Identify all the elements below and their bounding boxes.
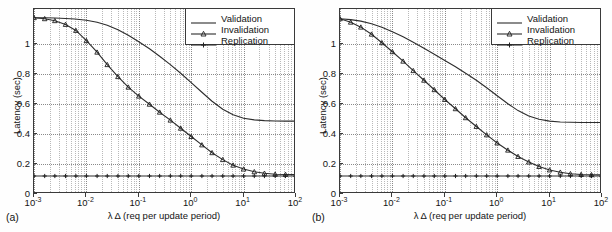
y-tick-mark	[339, 43, 343, 44]
y-tick-mark	[33, 163, 37, 164]
x-tick-mark	[190, 193, 191, 197]
y-tick-label: 1	[25, 37, 30, 48]
series-marker-plus	[369, 174, 373, 178]
legend-label: Replication	[527, 35, 574, 46]
series-marker-plus	[168, 174, 172, 178]
x-tick-label: 10-1	[435, 196, 452, 208]
panel-label-b: (b)	[312, 211, 325, 223]
x-tick-mark	[33, 193, 34, 197]
legend-item-replication[interactable]: Replication	[190, 36, 294, 47]
y-axis-ticks-b: 00.20.40.60.81	[306, 8, 336, 193]
legend-item-replication[interactable]: Replication	[496, 36, 600, 47]
series-marker-plus	[231, 174, 235, 178]
legend-label: Validation	[527, 13, 568, 24]
series-marker-plus	[252, 174, 256, 178]
legend-a: ValidationInvalidationReplication	[185, 8, 295, 45]
series-marker-plus	[294, 174, 295, 178]
legend-label: Invalidation	[221, 24, 269, 35]
series-marker-plus	[43, 174, 47, 178]
series-marker-plus	[210, 174, 214, 178]
y-tick-mark	[339, 133, 343, 134]
series-marker-plus	[495, 174, 499, 178]
series-marker-plus	[485, 174, 489, 178]
series-marker-plus	[401, 174, 405, 178]
legend-sample-none-icon	[496, 14, 523, 25]
legend-sample-triangle-icon	[190, 25, 217, 36]
y-tick-mark	[33, 43, 37, 44]
series-marker-plus	[74, 174, 78, 178]
series-marker-plus	[349, 174, 353, 178]
x-tick-mark	[138, 193, 139, 197]
y-tick-label: 0.8	[323, 67, 336, 78]
series-marker-plus	[432, 174, 436, 178]
x-tick-mark	[391, 193, 392, 197]
y-tick-label: 0.2	[17, 157, 30, 168]
legend-label: Validation	[221, 13, 262, 24]
panel-label-a: (a)	[6, 211, 19, 223]
series-marker-plus	[527, 174, 531, 178]
x-tick-label: 10-2	[383, 196, 400, 208]
figure-two-panel-latency-chart: Latency (sec) 00.20.40.60.81 10-310-210-…	[0, 0, 612, 232]
series-marker-plus	[548, 174, 552, 178]
series-marker-plus	[453, 174, 457, 178]
y-axis-ticks-a: 00.20.40.60.81	[0, 8, 30, 193]
series-marker-plus	[516, 174, 520, 178]
legend-b: ValidationInvalidationReplication	[491, 8, 601, 45]
legend-sample-none-icon	[190, 14, 217, 25]
x-tick-mark	[243, 193, 244, 197]
x-tick-label: 10-3	[331, 196, 348, 208]
series-marker-plus	[443, 174, 447, 178]
x-tick-mark	[339, 193, 340, 197]
x-tick-label: 100	[183, 196, 197, 208]
y-tick-label: 0.6	[17, 97, 30, 108]
series-marker-plus	[359, 174, 363, 178]
series-marker-plus	[380, 174, 384, 178]
x-tick-label: 10-1	[129, 196, 146, 208]
y-tick-label: 1	[331, 37, 336, 48]
x-tick-mark	[85, 193, 86, 197]
y-tick-label: 0.2	[323, 157, 336, 168]
legend-label: Replication	[221, 35, 268, 46]
legend-sample-triangle-icon	[496, 25, 523, 36]
x-tick-label: 10-3	[25, 196, 42, 208]
series-marker-plus	[242, 174, 246, 178]
x-tick-label: 101	[235, 196, 249, 208]
y-tick-mark	[339, 103, 343, 104]
series-marker-plus	[189, 174, 193, 178]
x-tick-label: 101	[541, 196, 555, 208]
x-axis-title-b: λ Δ (req per update period)	[339, 210, 601, 221]
series-marker-plus	[137, 174, 141, 178]
series-marker-plus	[537, 174, 541, 178]
legend-sample-plus-icon	[190, 36, 217, 47]
y-tick-mark	[33, 133, 37, 134]
series-marker-plus	[464, 174, 468, 178]
y-tick-mark	[33, 103, 37, 104]
series-marker-plus	[200, 174, 204, 178]
x-tick-mark	[601, 193, 602, 197]
series-marker-plus	[158, 174, 162, 178]
series-marker-plus	[600, 174, 601, 178]
series-marker-plus	[116, 174, 120, 178]
series-marker-plus	[33, 174, 36, 178]
y-tick-mark	[33, 73, 37, 74]
y-tick-mark	[339, 73, 343, 74]
y-tick-label: 0.4	[17, 127, 30, 138]
series-marker-plus	[63, 174, 67, 178]
x-tick-mark	[549, 193, 550, 197]
x-tick-mark	[496, 193, 497, 197]
x-tick-label: 10-2	[77, 196, 94, 208]
chart-panel-a: Latency (sec) 00.20.40.60.81 10-310-210-…	[0, 0, 306, 232]
series-marker-plus	[221, 174, 225, 178]
x-tick-label: 100	[489, 196, 503, 208]
y-tick-label: 0.6	[323, 97, 336, 108]
series-marker-plus	[506, 174, 510, 178]
x-tick-mark	[295, 193, 296, 197]
series-marker-plus	[84, 174, 88, 178]
y-tick-label: 0.8	[17, 67, 30, 78]
series-marker-plus	[411, 174, 415, 178]
x-axis-title-a: λ Δ (req per update period)	[33, 210, 295, 221]
series-marker-plus	[147, 174, 151, 178]
y-tick-label: 0.4	[323, 127, 336, 138]
x-tick-label: 102	[288, 196, 302, 208]
series-marker-plus	[390, 174, 394, 178]
